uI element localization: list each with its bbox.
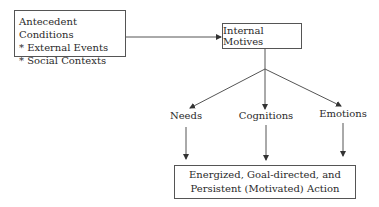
arrow-to-emotions [265, 69, 341, 106]
antecedent-conditions-box: Antecedent Conditions * External Events … [14, 10, 126, 57]
emotions-label: Emotions [319, 108, 367, 119]
cognitions-label: Cognitions [239, 110, 294, 121]
arrow-to-needs [190, 69, 265, 108]
internal-motives-box: Internal Motives [222, 23, 302, 49]
action-line-2: Persistent (Motivated) Action [175, 182, 355, 196]
antecedent-item-external-events: * External Events [19, 41, 125, 54]
antecedent-title: Antecedent Conditions [19, 15, 125, 41]
motivated-action-box: Energized, Goal-directed, and Persistent… [174, 165, 356, 199]
needs-label: Needs [170, 110, 202, 121]
internal-motives-label: Internal Motives [223, 25, 301, 47]
action-line-1: Energized, Goal-directed, and [175, 168, 355, 182]
antecedent-item-social-contexts: * Social Contexts [19, 54, 125, 67]
